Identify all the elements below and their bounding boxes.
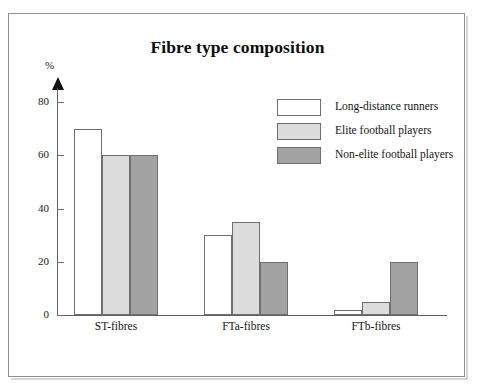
y-axis-tick-label: 60 (23, 148, 49, 160)
legend-label: Long-distance runners (335, 100, 438, 112)
y-axis-tick-label: 80 (23, 95, 49, 107)
bar (334, 310, 362, 315)
bar (362, 302, 390, 315)
y-axis-tick-label: 40 (23, 202, 49, 214)
bar (204, 235, 232, 315)
legend-label: Non-elite football players (335, 148, 453, 160)
y-axis-line (57, 88, 58, 316)
frame-shadow-right (466, 16, 468, 378)
scan-artifact-text: ˙ ˙ ˙ ˙ ˙ (52, 0, 84, 3)
x-axis-line (57, 315, 447, 316)
y-axis-tick (57, 155, 64, 156)
bar (74, 129, 102, 315)
y-axis-tick (57, 209, 64, 210)
x-axis-category-label: ST-fibres (48, 320, 184, 332)
frame-shadow-bottom (11, 378, 468, 380)
bar (102, 155, 130, 315)
legend-swatch (277, 99, 321, 116)
bar (130, 155, 158, 315)
bar (260, 262, 288, 315)
y-axis-tick (57, 102, 64, 103)
x-axis-category-label: FTb-fibres (308, 320, 444, 332)
y-axis-tick-label: 20 (23, 255, 49, 267)
legend-swatch (277, 147, 321, 164)
y-axis-tick-label: 0 (23, 308, 49, 320)
y-axis-tick (57, 315, 64, 316)
chart-figure-frame: Fibre type composition % 020406080 ST-fi… (8, 13, 465, 377)
bar (390, 262, 418, 315)
bar (232, 222, 260, 315)
y-axis-unit-label: % (45, 59, 54, 71)
x-axis-category-label: FTa-fibres (178, 320, 314, 332)
y-axis-arrow-icon (52, 77, 64, 90)
scan-top-text-artifact: ˙ ˙ ˙ ˙ ˙ (0, 0, 487, 11)
legend-label: Elite football players (335, 124, 431, 136)
chart-title: Fibre type composition (9, 37, 466, 58)
y-axis-tick (57, 262, 64, 263)
legend-swatch (277, 123, 321, 140)
